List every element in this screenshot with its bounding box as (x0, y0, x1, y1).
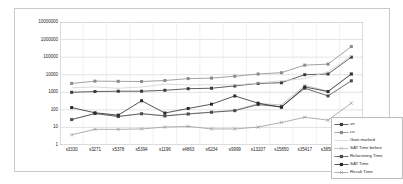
legend-item[interactable]: cn (333, 128, 401, 136)
y-axis-tick: 1000000 (41, 37, 58, 42)
legend-marker-icon (334, 153, 349, 160)
legend-label: Result Time (349, 170, 373, 174)
legend-item[interactable]: Gate marked (333, 136, 401, 144)
x-axis-tick: s5394 (136, 148, 148, 153)
x-axis-tick-labels: s3330s3271s5378s5394s1196s4863s6234s9999… (60, 148, 363, 162)
plot-area (60, 22, 363, 145)
y-axis-tick: 1000 (48, 90, 58, 95)
x-axis-tick: s9999 (229, 148, 241, 153)
legend-label: vn (349, 122, 355, 126)
legend-label: SAT Time before (349, 146, 382, 150)
legend-marker-icon (334, 137, 349, 144)
y-axis-tick: 1 (56, 143, 58, 148)
x-axis-tick: s1196 (159, 148, 171, 153)
x-axis-tick: s35417 (297, 148, 311, 153)
legend-marker-icon (334, 121, 349, 128)
x-axis-tick: s3330 (66, 148, 78, 153)
x-axis-tick: s4863 (182, 148, 194, 153)
x-axis-tick: s3271 (89, 148, 101, 153)
y-axis-tick-labels: 110100100010000100000100000010000000 (29, 22, 58, 145)
chart-frame: 110100100010000100000100000010000000 s33… (14, 8, 390, 172)
legend-marker-icon (334, 169, 349, 176)
legend-item[interactable]: SAT Time (333, 160, 401, 168)
y-axis-tick: 10 (53, 125, 58, 130)
legend-label: cn (349, 130, 355, 134)
y-axis-tick: 10000 (46, 72, 58, 77)
legend-label: Gate marked (349, 138, 375, 142)
legend-label: Refactoring Time (349, 154, 382, 158)
chart-figure: 110100100010000100000100000010000000 s33… (0, 0, 403, 184)
legend-item[interactable]: vn (333, 120, 401, 128)
legend-marker-icon (334, 161, 349, 168)
chart-legend: vncnGate markedSAT Time beforeRefactorin… (331, 117, 403, 179)
legend-label: SAT Time (349, 162, 368, 166)
legend-item[interactable]: Result Time (333, 168, 401, 176)
x-axis-tick: s15850 (274, 148, 288, 153)
legend-item[interactable]: SAT Time before (333, 144, 401, 152)
x-axis-tick: s6234 (205, 148, 217, 153)
series-canvas (60, 22, 363, 145)
y-axis-tick: 10000000 (38, 20, 58, 25)
y-axis-tick: 100 (51, 108, 58, 113)
x-axis-tick: s13207 (251, 148, 265, 153)
legend-marker-icon (334, 145, 349, 152)
legend-marker-icon (334, 129, 349, 136)
legend-item[interactable]: Refactoring Time (333, 152, 401, 160)
x-axis-tick: s5378 (112, 148, 124, 153)
y-axis-tick: 100000 (43, 55, 58, 60)
